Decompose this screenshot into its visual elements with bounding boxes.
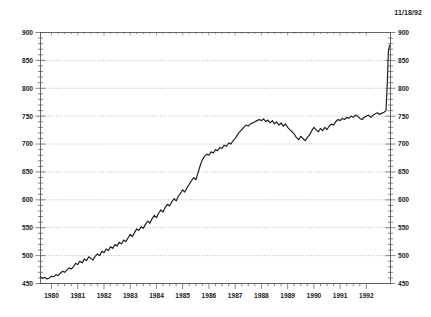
x-tick-label: 1981 (70, 292, 85, 299)
y-axis-labels-left: 450500550600650700750800850900 (22, 29, 33, 287)
x-tick-label: 1988 (254, 292, 269, 299)
y-tick-label-right: 550 (398, 224, 409, 231)
y-tick-label-left: 700 (22, 140, 33, 147)
tick-marks-group (36, 33, 396, 290)
y-tick-label-left: 800 (22, 85, 33, 92)
y-tick-label-left: 900 (22, 29, 33, 36)
data-series-group (41, 45, 390, 279)
y-tick-label-right: 700 (398, 140, 409, 147)
x-tick-label: 1983 (123, 292, 138, 299)
x-tick-label: 1987 (228, 292, 243, 299)
y-tick-label-right: 800 (398, 85, 409, 92)
y-tick-label-left: 750 (22, 113, 33, 120)
y-tick-label-right: 600 (398, 196, 409, 203)
x-tick-label: 1982 (97, 292, 112, 299)
y-tick-label-left: 600 (22, 196, 33, 203)
chart-container: 11/18/92 450500550600650700750800850900 … (0, 0, 431, 317)
y-tick-label-left: 550 (22, 224, 33, 231)
y-tick-label-right: 650 (398, 168, 409, 175)
y-axis-labels-right: 450500550600650700750800850900 (398, 29, 409, 287)
y-tick-label-left: 500 (22, 252, 33, 259)
x-tick-label: 1989 (280, 292, 295, 299)
x-tick-label: 1984 (149, 292, 164, 299)
y-tick-label-right: 850 (398, 57, 409, 64)
y-tick-label-left: 450 (22, 280, 33, 287)
x-tick-label: 1980 (44, 292, 59, 299)
x-tick-label: 1992 (359, 292, 374, 299)
y-tick-label-right: 900 (398, 29, 409, 36)
y-tick-label-left: 650 (22, 168, 33, 175)
gridlines-group (41, 60, 391, 255)
x-tick-label: 1985 (175, 292, 190, 299)
x-axis-labels: 1980198119821983198419851986198719881989… (44, 292, 374, 299)
x-tick-label: 1991 (333, 292, 348, 299)
y-tick-label-left: 850 (22, 57, 33, 64)
x-tick-label: 1990 (307, 292, 322, 299)
y-tick-label-right: 450 (398, 280, 409, 287)
y-tick-label-right: 500 (398, 252, 409, 259)
line-chart-svg: 450500550600650700750800850900 450500550… (0, 0, 431, 317)
x-tick-label: 1986 (202, 292, 217, 299)
plot-area: 450500550600650700750800850900 450500550… (0, 0, 431, 317)
y-tick-label-right: 750 (398, 113, 409, 120)
axis-frame (41, 33, 391, 284)
